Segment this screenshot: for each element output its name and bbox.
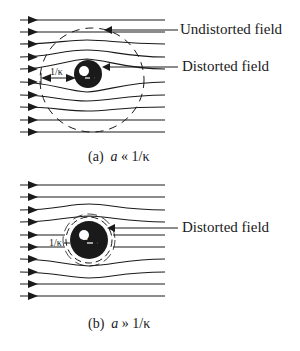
panel-a-debye-label: 1/κ bbox=[50, 66, 63, 77]
caption-a-rhs: 1/κ bbox=[132, 149, 150, 164]
caption-b-rhs: 1/κ bbox=[132, 316, 150, 331]
panel-b-arrowheads bbox=[28, 181, 38, 300]
panel-a-caption: (a) a « 1/κ bbox=[88, 149, 150, 165]
panel-b-debye-label: 1/κ bbox=[49, 237, 62, 248]
caption-a-rel: « bbox=[121, 149, 128, 164]
caption-a-prefix: (a) bbox=[88, 149, 104, 164]
panel-a-arrowheads bbox=[28, 16, 38, 136]
caption-b-prefix: (b) bbox=[88, 316, 104, 331]
caption-b-rel: » bbox=[122, 316, 129, 331]
caption-b-var: a bbox=[111, 316, 118, 331]
panel-b-distorted-label: Distorted field bbox=[182, 219, 269, 236]
panel-b-sphere-label: a bbox=[83, 231, 88, 242]
panel-b-caption: (b) a » 1/κ bbox=[88, 316, 150, 332]
panel-b-particle bbox=[70, 221, 108, 259]
caption-a-var: a bbox=[111, 149, 118, 164]
panel-a-sphere-label: a bbox=[82, 67, 87, 78]
panel-a-undistorted-label: Undistorted field bbox=[180, 21, 282, 38]
field-diagram: a 1/κ a 1/κ bbox=[0, 0, 300, 351]
panel-a-distorted-label: Distorted field bbox=[182, 58, 269, 75]
